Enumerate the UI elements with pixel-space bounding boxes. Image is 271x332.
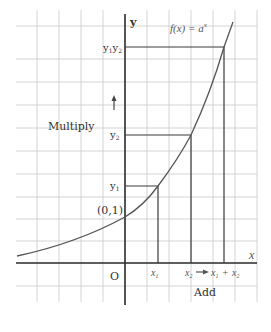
guide-sum-product [125,47,224,263]
grid [16,10,257,302]
origin-label: O [110,270,119,283]
x-axis-label: x [248,248,255,262]
label-y1: y1 [109,180,119,192]
label-x1-plus-x2: x1+x2 [210,267,240,279]
multiply-annotation: Multiply [48,120,95,133]
intercept-label: (0,1) [97,204,123,217]
label-y2: y2 [109,129,120,141]
up-arrow-icon [112,95,117,110]
guide-x1-y1 [125,186,158,263]
y-axis-label: y [129,16,137,29]
label-y1y2: y1y2 [102,42,122,54]
label-x1: x1 [150,267,158,279]
add-annotation: Add [193,286,216,299]
right-arrow-icon [196,270,209,275]
exponential-diagram: y x O f(x) = ax (0,1) y1y2 y2 y1 x1 x2 x… [0,0,271,332]
function-label: f(x) = ax [170,21,208,35]
